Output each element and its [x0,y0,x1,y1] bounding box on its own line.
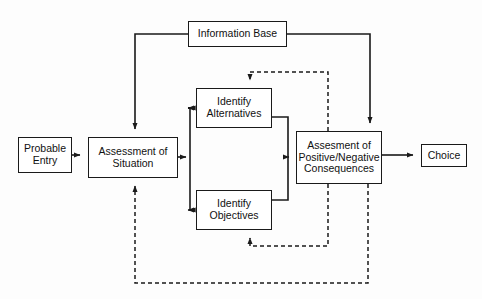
connector-objectives-to-merge [272,157,288,200]
node-identify-objectives[interactable]: Identify Objectives [196,190,272,230]
node-assessment-of-situation-label: Assessment of Situation [97,146,170,170]
node-probable-entry-label: Probable Entry [22,143,68,167]
node-identify-objectives-label: Identify Objectives [207,198,260,222]
flowchart-diagram: Probable Entry Assessment of Situation I… [0,0,482,299]
connector-infobase-left-down [135,34,188,129]
node-assessment-of-situation[interactable]: Assessment of Situation [88,137,178,178]
node-probable-entry[interactable]: Probable Entry [18,137,72,173]
node-assessment-of-consequences-label: Assesment of Positive/Negative Consequen… [296,140,381,175]
node-choice-label: Choice [426,150,463,162]
node-identify-alternatives-label: Identify Alternatives [205,96,264,120]
connector-alternatives-to-merge [272,117,288,157]
node-information-base[interactable]: Information Base [188,21,287,47]
node-assessment-of-consequences[interactable]: Assesment of Positive/Negative Consequen… [296,131,382,184]
node-identify-alternatives[interactable]: Identify Alternatives [196,88,272,128]
node-information-base-label: Information Base [196,28,279,40]
node-choice[interactable]: Choice [421,144,467,167]
